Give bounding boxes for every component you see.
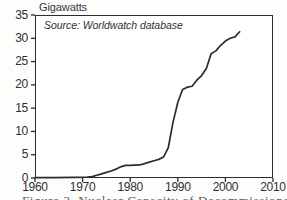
x-tick-label: 1970 <box>61 180 105 194</box>
x-tick-label: 2000 <box>203 180 247 194</box>
x-tick-label: 1980 <box>108 180 152 194</box>
x-tick-label: 2010 <box>251 180 287 194</box>
y-tick-label: 35 <box>2 8 28 22</box>
y-tick-label: 20 <box>2 77 28 91</box>
y-tick-label: 15 <box>2 101 28 115</box>
figure-caption: Figure 3. Nuclear Capacity of Decommissi… <box>22 193 287 200</box>
chart-plot-area <box>0 0 287 200</box>
y-tick-label: 10 <box>2 124 28 138</box>
data-series-line <box>35 32 240 178</box>
figure-container: Gigawatts Source: Worldwatch database 05… <box>0 0 287 200</box>
y-tick-label: 5 <box>2 147 28 161</box>
tick-marks-group <box>31 15 273 182</box>
y-tick-label: 25 <box>2 54 28 68</box>
x-tick-label: 1990 <box>156 180 200 194</box>
y-tick-label: 30 <box>2 31 28 45</box>
x-tick-label: 1960 <box>13 180 57 194</box>
